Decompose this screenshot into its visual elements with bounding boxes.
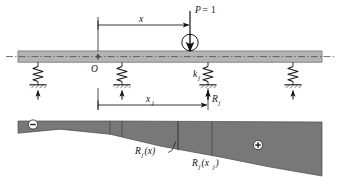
positive-sign-badge: [253, 140, 262, 149]
dimension-lines: [98, 17, 208, 110]
spring-stiffness-label: k j: [193, 69, 200, 81]
influence-at-xj-arg-open: (x: [202, 158, 210, 169]
influence-at-xj-base: R: [191, 158, 198, 168]
load-label-symbol: P: [194, 5, 201, 15]
negative-sign-badge: [28, 120, 37, 129]
xj-dimension-label: x j: [145, 94, 154, 106]
beam-assembly: [6, 51, 334, 62]
reaction-label-sub: j: [218, 99, 221, 106]
influence-at-xj-sub: j: [198, 163, 201, 170]
load-label-equals: =: [203, 5, 208, 15]
influence-at-x-base: R: [134, 146, 141, 156]
reaction-label: R j: [211, 94, 221, 106]
influence-at-xj-arg-close: ): [215, 158, 219, 169]
spring-support-2: [114, 62, 131, 99]
influence-at-x-label: R j (x): [134, 146, 155, 158]
origin-label: O: [91, 64, 98, 74]
spring-stiffness-sub: j: [197, 74, 200, 81]
unit-load-assembly: [182, 11, 198, 52]
influence-at-x-sub: j: [141, 151, 144, 158]
reaction-label-base: R: [211, 94, 218, 104]
xj-dimension-label-base: x: [145, 94, 151, 104]
spring-stiffness-base: k: [193, 69, 198, 79]
load-label-value: 1: [211, 5, 216, 15]
spring-support-4: [285, 62, 302, 99]
influence-line-figure: O P = 1 x x j k j R j R j (x): [0, 0, 340, 187]
influence-line-area: [18, 120, 322, 176]
influence-at-x-arg: (x): [145, 146, 156, 157]
xj-dimension-label-sub: j: [151, 99, 154, 106]
influence-at-xj-label: R j (x j ): [191, 158, 219, 170]
spring-support-1: [30, 62, 47, 99]
x-dimension-label: x: [138, 14, 144, 24]
figure-canvas: O P = 1 x x j k j R j R j (x): [0, 0, 340, 187]
load-label: P = 1: [194, 5, 216, 15]
influence-at-xj-arg-sub: j: [212, 163, 215, 170]
